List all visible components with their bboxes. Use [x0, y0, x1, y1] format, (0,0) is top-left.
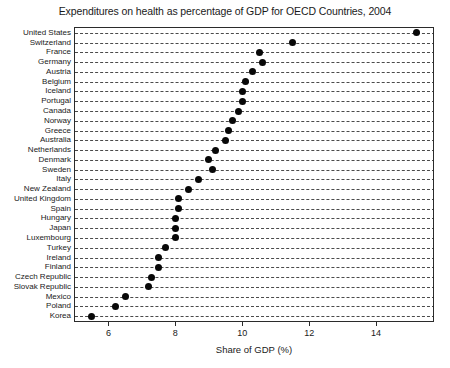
gridline-row	[75, 238, 434, 239]
category-label: Spain	[0, 205, 71, 213]
gridline-row	[75, 160, 434, 161]
gridline-row	[75, 218, 434, 219]
category-label: Turkey	[0, 244, 71, 252]
data-point	[235, 108, 242, 115]
data-point	[229, 117, 236, 124]
category-label: Mexico	[0, 293, 71, 301]
category-label: Australia	[0, 136, 71, 144]
category-label: Hungary	[0, 214, 71, 222]
category-label: Sweden	[0, 166, 71, 174]
gridline-row	[75, 43, 434, 44]
data-point	[172, 234, 179, 241]
gridline-row	[75, 170, 434, 171]
gridline-row	[75, 179, 434, 180]
category-label: Netherlands	[0, 146, 71, 154]
data-point	[122, 293, 129, 300]
category-label: Germany	[0, 58, 71, 66]
chart-title: Expenditures on health as percentage of …	[0, 5, 450, 17]
gridline-row	[75, 121, 434, 122]
category-label: Portugal	[0, 97, 71, 105]
category-label: Denmark	[0, 156, 71, 164]
category-label: United Kingdom	[0, 195, 71, 203]
data-point	[148, 274, 155, 281]
gridline-row	[75, 111, 434, 112]
gridline-row	[75, 248, 434, 249]
gridline-row	[75, 316, 434, 317]
data-point	[175, 205, 182, 212]
data-point	[249, 68, 256, 75]
data-point	[256, 49, 263, 56]
data-point	[413, 29, 420, 36]
gridline-row	[75, 209, 434, 210]
data-point	[185, 186, 192, 193]
category-label: Italy	[0, 175, 71, 183]
data-point	[112, 303, 119, 310]
gridline-row	[75, 306, 434, 307]
category-label: New Zealand	[0, 185, 71, 193]
x-tick-mark	[309, 322, 310, 326]
gridline-row	[75, 267, 434, 268]
gridline-row	[75, 62, 434, 63]
gridline-row	[75, 82, 434, 83]
gridline-row	[75, 258, 434, 259]
category-label: Iceland	[0, 87, 71, 95]
health-expenditure-dot-chart: Expenditures on health as percentage of …	[0, 0, 450, 368]
x-tick-mark	[108, 322, 109, 326]
data-point	[155, 264, 162, 271]
category-label: Slovak Republic	[0, 283, 71, 291]
category-label: Japan	[0, 224, 71, 232]
gridline-row	[75, 33, 434, 34]
data-point	[195, 176, 202, 183]
data-point	[222, 137, 229, 144]
category-label: Korea	[0, 312, 71, 320]
x-axis: 68101214	[74, 322, 434, 362]
data-point	[175, 195, 182, 202]
category-label: Finland	[0, 263, 71, 271]
x-tick-mark	[376, 322, 377, 326]
plot-area	[74, 27, 434, 322]
gridline-row	[75, 140, 434, 141]
gridline-row	[75, 297, 434, 298]
category-label: Luxembourg	[0, 234, 71, 242]
x-axis-title: Share of GDP (%)	[74, 344, 434, 355]
gridline-row	[75, 91, 434, 92]
data-point	[162, 244, 169, 251]
gridline-row	[75, 287, 434, 288]
x-tick-mark	[242, 322, 243, 326]
gridline-row	[75, 150, 434, 151]
category-label: United States	[0, 29, 71, 37]
x-tick-mark	[175, 322, 176, 326]
category-label: France	[0, 48, 71, 56]
x-tick-label: 6	[106, 328, 111, 338]
category-label: Canada	[0, 107, 71, 115]
x-tick-label: 12	[304, 328, 314, 338]
category-label: Austria	[0, 68, 71, 76]
category-label: Switzerland	[0, 39, 71, 47]
x-tick-label: 8	[173, 328, 178, 338]
data-point	[172, 225, 179, 232]
category-label: Belgium	[0, 78, 71, 86]
x-tick-label: 10	[237, 328, 247, 338]
data-point	[239, 98, 246, 105]
data-point	[225, 127, 232, 134]
data-point	[239, 88, 246, 95]
category-label: Greece	[0, 127, 71, 135]
data-point	[205, 156, 212, 163]
x-tick-label: 14	[371, 328, 381, 338]
gridline-row	[75, 101, 434, 102]
data-point	[259, 59, 266, 66]
data-point	[88, 313, 95, 320]
category-label: Norway	[0, 117, 71, 125]
data-point	[209, 166, 216, 173]
category-label: Ireland	[0, 254, 71, 262]
gridline-row	[75, 199, 434, 200]
category-axis-labels: United StatesSwitzerlandFranceGermanyAus…	[0, 27, 71, 322]
gridline-row	[75, 277, 434, 278]
gridline-row	[75, 228, 434, 229]
data-point	[155, 254, 162, 261]
category-label: Czech Republic	[0, 273, 71, 281]
data-point	[172, 215, 179, 222]
data-point	[289, 39, 296, 46]
gridline-row	[75, 131, 434, 132]
data-point	[212, 147, 219, 154]
